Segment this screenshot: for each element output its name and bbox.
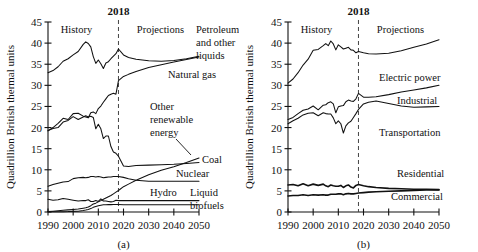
y-axis-title: Quadrillion British thermal units [4,45,16,189]
y-axis-tick-label: 5 [37,185,43,197]
projections-label: Projections [377,24,424,35]
y-axis-tick-label: 30 [31,79,43,91]
label-transportation: Transportation [379,127,441,138]
y-axis-tick-label: 0 [37,206,43,218]
x-axis-tick-label: 2030 [378,219,401,231]
divider-year-label: 2018 [107,5,130,17]
label-petroleum-line3: liquids [196,50,225,61]
x-axis-tick-label: 2050 [428,219,451,231]
y-axis-tick-label: 40 [271,37,283,49]
chart-panel-a: 0510152025303540451990200020102020203020… [0,0,239,252]
y-axis-tick-label: 35 [31,58,43,70]
y-axis-tick-label: 25 [271,100,283,112]
label-petroleum-line2: and other [196,37,236,48]
y-axis-tick-label: 10 [31,164,43,176]
label-electric-power: Electric power [379,72,441,83]
x-axis-tick-label: 2000 [302,219,325,231]
panel-a-svg: 0510152025303540451990200020102020203020… [0,0,239,252]
y-axis-tick-label: 15 [271,143,283,155]
divider-year-label: 2018 [347,5,370,17]
label-residential: Residential [397,168,444,179]
x-axis-tick-label: 2020 [113,219,136,231]
x-axis-tick-label: 1990 [37,219,60,231]
x-axis-tick-label: 2020 [353,219,376,231]
x-axis-tick-label: 2010 [87,219,110,231]
chart-panel-b: 0510152025303540451990200020102020203020… [239,0,478,252]
label-natural-gas: Natural gas [168,69,216,80]
y-axis-tick-label: 40 [31,37,43,49]
y-axis-tick-label: 45 [271,16,283,28]
x-axis-tick-label: 2040 [163,219,186,231]
x-axis-tick-label: 2000 [62,219,85,231]
y-axis-tick-label: 45 [31,16,43,28]
label-petroleum-line1: Petroleum [196,24,239,35]
y-axis-tick-label: 0 [277,206,283,218]
y-axis-title: Quadrillion British thermal units [243,45,255,189]
label-industrial: Industrial [397,95,437,106]
series-line-hydro [48,198,199,201]
label-other-renewable-line2: renewable [150,114,193,125]
y-axis-tick-label: 5 [277,185,283,197]
y-axis-tick-label: 35 [271,58,283,70]
projections-label: Projections [137,24,184,35]
history-label: History [61,24,93,35]
panel-b-svg: 0510152025303540451990200020102020203020… [239,0,478,252]
y-axis-tick-label: 30 [271,79,283,91]
label-hydro: Hydro [150,187,177,198]
history-label: History [301,24,333,35]
series-line-residential [288,184,439,190]
label-nuclear: Nuclear [176,168,210,179]
y-axis-tick-label: 10 [271,164,283,176]
figure-root: 0510152025303540451990200020102020203020… [0,0,478,252]
y-axis-tick-label: 20 [271,122,283,134]
label-other-renewable-line3: energy [150,127,179,138]
label-other-renewable-line1: Other [150,101,174,112]
x-axis-tick-label: 1990 [277,219,300,231]
other-renewable-leader-line [176,139,191,155]
panel-caption: (a) [117,238,130,251]
label-commercial: Commercial [391,191,443,202]
panel-caption: (b) [357,238,370,251]
label-liquid-biofuels-line2: biofuels [190,200,224,211]
y-axis-tick-label: 15 [31,143,43,155]
x-axis-tick-label: 2030 [138,219,161,231]
label-coal: Coal [202,154,222,165]
label-liquid-biofuels-line1: Liquid [190,187,219,198]
x-axis-tick-label: 2040 [403,219,426,231]
x-axis-tick-label: 2010 [327,219,350,231]
x-axis-tick-label: 2050 [188,219,211,231]
y-axis-tick-label: 20 [31,122,43,134]
y-axis-tick-label: 25 [31,100,43,112]
